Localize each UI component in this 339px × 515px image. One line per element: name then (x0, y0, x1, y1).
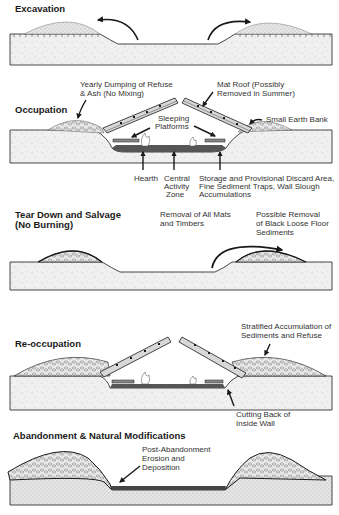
mat-roof-left (100, 337, 171, 377)
panel-occupation: Occupation Yearly Dumping of Refuse & As… (10, 80, 336, 199)
ground-block (10, 376, 332, 410)
panel-title: Abandonment & Natural Modifications (13, 430, 186, 441)
label-mat-roof: Mat Roof (Possibly Removed in Summer) (217, 80, 295, 98)
sleeping-platform-right (205, 139, 225, 142)
label-storage-discard: Storage and Provisional Discard Area, Fi… (199, 174, 336, 199)
mat-roof-right (179, 337, 246, 378)
label-hearth: Hearth (134, 174, 158, 183)
label-small-earth-bank: Small Earth Bank (266, 115, 329, 124)
ground-block (10, 34, 332, 65)
label-removal-mats: Removal of All Mats and Timbers (160, 210, 233, 228)
panel-title: Occupation (15, 104, 67, 115)
label-cutting-back: Cutting Back of Inside Wall (236, 410, 292, 428)
fire-icon (190, 137, 197, 146)
label-possible-removal: Possible Removal of Black Loose Floor Se… (256, 210, 331, 237)
hearth-fire-icon (141, 133, 149, 146)
panel-abandonment: Abandonment & Natural Modifications Post… (8, 430, 332, 505)
bank-right (236, 251, 306, 262)
label-stratified-accumulation: Stratified Accumulation of Sediments and… (241, 322, 334, 340)
spoil-heap-left (24, 22, 100, 34)
panel-title: Tear Down and Salvage (No Burning) (15, 209, 124, 230)
erosion-deposit (110, 486, 226, 490)
bank-left (14, 357, 110, 376)
label-sleeping-platforms: Sleeping Platforms (155, 114, 191, 131)
label-central-activity-zone: Central Activity Zone (164, 174, 192, 199)
panel-title: Re-occupation (15, 338, 81, 349)
panel-re-occupation: Re-occupation Stratified Accumulation of… (10, 322, 334, 428)
floor-layer (112, 145, 226, 152)
spoil-heap-right (235, 23, 312, 34)
sleeping-platform-left (113, 139, 139, 142)
ground-block (10, 476, 332, 505)
panel-excavation: Excavation (10, 3, 332, 65)
ground-block (10, 262, 332, 290)
panel-title: Excavation (15, 3, 65, 14)
panel-tear-down: Tear Down and Salvage (No Burning) Remov… (10, 209, 332, 290)
mat-roof-right (182, 98, 252, 133)
label-yearly-dumping: Yearly Dumping of Refuse & Ash (No Mixin… (80, 80, 175, 98)
label-post-abandonment: Post-Abandonment Erosion and Deposition (142, 445, 213, 472)
